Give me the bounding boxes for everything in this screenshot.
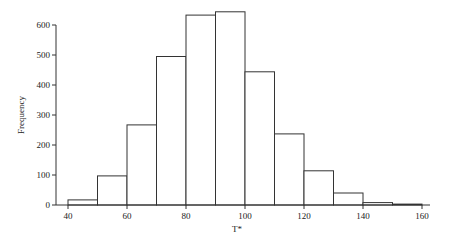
histogram-bar <box>245 72 275 205</box>
y-tick-label: 300 <box>37 110 51 120</box>
x-axis: 406080100120140160 <box>56 205 430 221</box>
x-tick-label: 40 <box>64 211 74 221</box>
histogram-bar <box>275 134 305 205</box>
x-tick-label: 100 <box>238 211 252 221</box>
y-tick-label: 200 <box>37 140 51 150</box>
y-tick-label: 400 <box>37 80 51 90</box>
y-axis-title: Frequency <box>16 96 26 134</box>
histogram-bar <box>186 15 216 205</box>
histogram-chart: 0100200300400500600 406080100120140160 F… <box>0 0 449 246</box>
x-tick-label: 120 <box>297 211 311 221</box>
histogram-bar <box>157 57 187 206</box>
histogram-bar <box>127 125 157 205</box>
x-axis-title: T* <box>232 224 242 234</box>
histogram-bar <box>98 176 128 205</box>
histogram-bar <box>304 171 334 205</box>
y-tick-label: 100 <box>37 170 51 180</box>
histogram-bar <box>216 12 246 205</box>
y-tick-label: 500 <box>37 50 51 60</box>
y-tick-label: 0 <box>46 200 51 210</box>
histogram-bars <box>68 12 422 205</box>
x-tick-label: 80 <box>182 211 192 221</box>
histogram-bar <box>334 193 364 205</box>
x-tick-label: 160 <box>415 211 429 221</box>
y-tick-label: 600 <box>37 20 51 30</box>
histogram-bar <box>68 200 98 205</box>
x-tick-label: 60 <box>123 211 133 221</box>
x-tick-label: 140 <box>356 211 370 221</box>
y-axis: 0100200300400500600 <box>37 20 57 210</box>
